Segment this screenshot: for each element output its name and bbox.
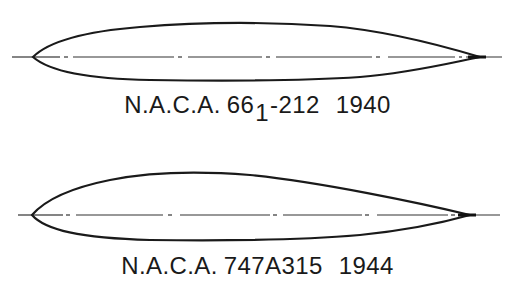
caption-bottom: N.A.C.A.747A3151944 <box>0 252 515 280</box>
airfoil-outline-top <box>33 23 480 80</box>
caption-top-prefix: N.A.C.A. <box>124 91 221 118</box>
caption-bottom-series: 747A315 <box>224 252 323 279</box>
caption-top-subscript: 1 <box>255 99 269 126</box>
caption-top-suffix: -212 <box>270 91 320 118</box>
caption-bottom-prefix: N.A.C.A. <box>121 252 218 279</box>
caption-top: N.A.C.A.661-2121940 <box>0 91 515 119</box>
airfoil-diagram-top <box>0 0 515 284</box>
airfoil-comparison-figure: N.A.C.A.661-2121940 N.A.C.A.747A3151944 <box>0 0 515 284</box>
caption-top-series: 66 <box>227 91 255 118</box>
caption-bottom-year: 1944 <box>339 252 394 279</box>
caption-top-year: 1940 <box>336 91 391 118</box>
airfoil-outline-bottom <box>32 173 470 241</box>
